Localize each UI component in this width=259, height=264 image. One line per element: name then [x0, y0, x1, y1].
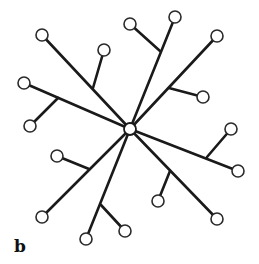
branch-bottom-side-leaf-node — [119, 225, 131, 237]
branch-bottom-right-main-edge — [130, 129, 217, 219]
branch-left-leaf-node — [18, 77, 30, 89]
center-hub-node — [124, 123, 136, 135]
branch-top-main-edge — [130, 17, 175, 129]
branch-left-main-edge — [24, 83, 130, 129]
branch-bottom-leaf-node — [80, 233, 92, 245]
branch-right-main-edge — [130, 129, 238, 171]
branch-upper-right-side-leaf-node — [197, 91, 209, 103]
branch-bottom-right-leaf-node — [211, 213, 223, 225]
star-tree-diagram — [0, 0, 259, 264]
branch-right-leaf-node — [232, 165, 244, 177]
branch-top-left-leaf-node — [36, 29, 48, 41]
panel-label: b — [14, 236, 26, 256]
branch-bottom-right-side-leaf-node — [152, 195, 164, 207]
branch-bottom-main-edge — [86, 129, 130, 239]
branch-lower-left-side-leaf-node — [51, 150, 63, 162]
branch-top-left-side-leaf-node — [98, 44, 110, 56]
branch-upper-right-leaf-node — [211, 30, 223, 42]
branch-right-side-leaf-node — [225, 123, 237, 135]
branch-top-side-leaf-node — [124, 18, 136, 30]
branch-top-left-main-edge — [42, 35, 130, 129]
branch-lower-left-main-edge — [42, 129, 130, 217]
branch-left-side-leaf-node — [24, 120, 36, 132]
branch-lower-left-leaf-node — [36, 211, 48, 223]
branch-top-leaf-node — [169, 11, 181, 23]
branch-upper-right-main-edge — [130, 36, 217, 129]
